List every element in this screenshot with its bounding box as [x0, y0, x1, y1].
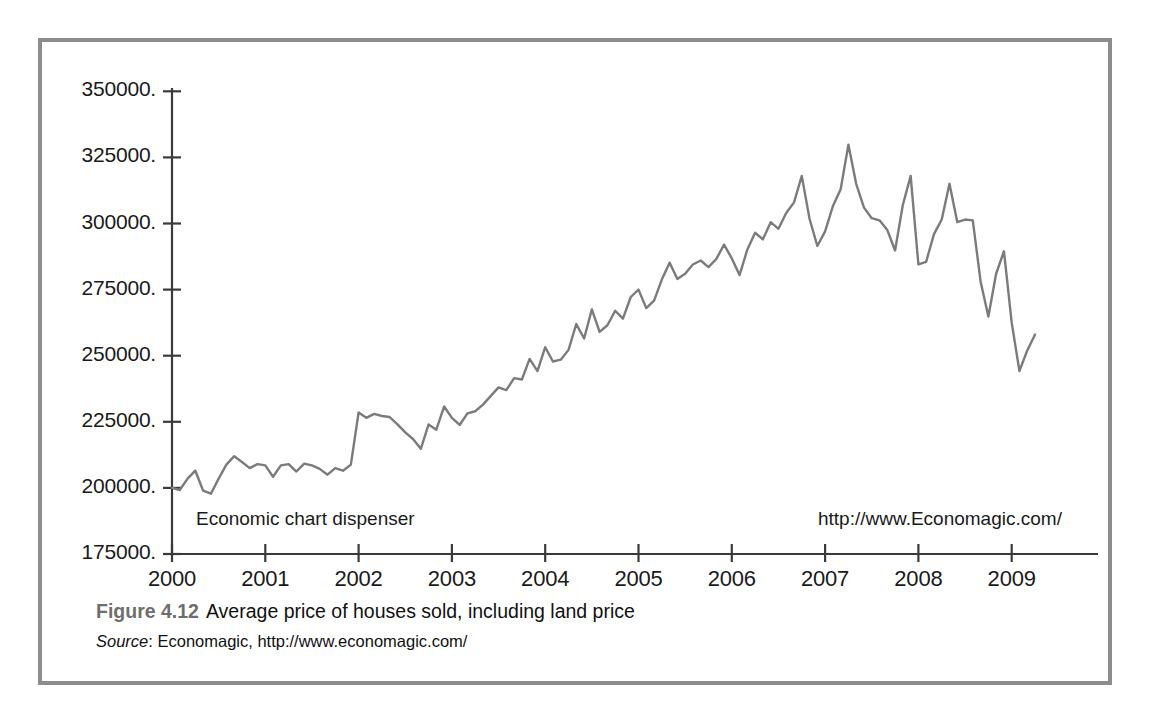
- y-axis-tick-label: 225000.: [0, 408, 156, 432]
- figure-number-label: Figure 4.12: [96, 600, 199, 622]
- figure-source-line: Source: Economagic, http://www.economagi…: [96, 630, 1056, 654]
- chart-annotation-left: Economic chart dispenser: [196, 508, 415, 530]
- figure-caption-text: Average price of houses sold, including …: [206, 600, 635, 622]
- chart-svg: [0, 0, 1158, 590]
- y-axis-tick-label: 325000.: [0, 143, 156, 167]
- x-axis-tick-label: 2000: [122, 566, 222, 592]
- source-label: Source: [96, 632, 148, 650]
- figure-container: 175000.200000.225000.250000.275000.30000…: [0, 0, 1158, 706]
- y-axis-tick-label: 275000.: [0, 276, 156, 300]
- x-axis-tick-label: 2004: [495, 566, 595, 592]
- x-axis-tick-label: 2006: [682, 566, 782, 592]
- x-axis-tick-label: 2008: [868, 566, 968, 592]
- figure-caption-title-line: Figure 4.12Average price of houses sold,…: [96, 598, 1056, 625]
- x-axis-tick-label: 2007: [775, 566, 875, 592]
- y-axis-tick-label: 200000.: [0, 474, 156, 498]
- y-axis-tick-label: 300000.: [0, 210, 156, 234]
- source-text: : Economagic, http://www.economagic.com/: [148, 632, 467, 650]
- chart-annotation-right: http://www.Economagic.com/: [818, 508, 1062, 530]
- y-axis-tick-label: 175000.: [0, 540, 156, 564]
- x-axis-tick-label: 2001: [215, 566, 315, 592]
- y-axis-tick-label: 350000.: [0, 77, 156, 101]
- x-axis-tick-label: 2003: [402, 566, 502, 592]
- x-axis-tick-label: 2002: [309, 566, 409, 592]
- chart-plot-area: 175000.200000.225000.250000.275000.30000…: [0, 0, 1158, 590]
- figure-caption-block: Figure 4.12Average price of houses sold,…: [96, 598, 1056, 654]
- x-axis-tick-label: 2009: [962, 566, 1062, 592]
- data-series-line: [172, 145, 1035, 494]
- x-axis-tick-label: 2005: [589, 566, 689, 592]
- y-axis-tick-label: 250000.: [0, 342, 156, 366]
